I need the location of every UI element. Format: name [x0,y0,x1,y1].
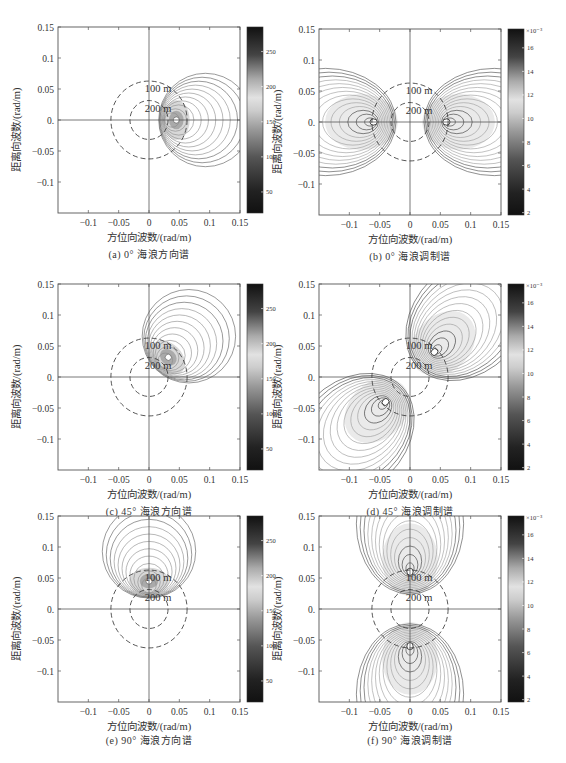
y-axis-label: 距离向波数/(rad/m) [269,90,284,174]
colorbar-tick: 2 [527,209,530,216]
x-tick: 0.15 [232,218,249,228]
y-tick: 0. [308,118,315,128]
x-tick: 0.05 [432,475,449,485]
x-tick: −0.1 [341,220,358,230]
colorbar-tick: 50 [266,188,273,195]
colorbar-tick: 6 [527,162,531,169]
x-tick: 0.05 [171,475,188,485]
x-axis-label: 方位向波数/(rad/m) [368,486,452,501]
colorbar-tick: 10 [527,370,534,377]
colorbar-tick: 4 [527,441,531,448]
y-tick: 0.1 [42,543,54,553]
panel-caption: (f) 90° 海浪调制谱 [367,732,453,747]
x-tick: −0.05 [108,475,130,485]
y-tick: 0.1 [42,311,54,321]
colorbar-tick: 14 [527,68,534,75]
y-tick: 0.1 [303,543,315,553]
panel-caption: (b) 0° 海浪调制谱 [369,248,451,263]
ring-label-200m: 200 m [406,360,433,371]
y-tick: 0.05 [37,574,54,584]
plot-b: 100 m200 m−0.1−0.0500.050.10.150.150.10.… [319,29,561,235]
y-tick: −0.05 [32,404,54,414]
colorbar-tick: 14 [527,323,534,330]
x-tick: 0.1 [204,475,216,485]
y-tick: 0.05 [298,87,315,97]
x-axis-label: 方位向波数/(rad/m) [107,718,191,733]
y-tick: 0. [47,116,54,126]
colorbar-tick: 4 [527,673,531,680]
colorbar [508,284,524,470]
x-tick: −0.05 [369,220,391,230]
colorbar-tick: 6 [527,417,531,424]
plot-a: 100 m200 m−0.1−0.0500.050.10.150.150.10.… [58,27,300,233]
colorbar-tick: 16 [527,299,534,306]
x-tick: 0.05 [432,220,449,230]
x-tick: −0.1 [341,475,358,485]
panel-caption: (e) 90° 海浪方向谱 [106,732,193,747]
colorbar-tick: 12 [527,578,534,585]
x-tick: 0 [147,475,152,485]
y-tick: 0.05 [37,85,54,95]
y-tick: −0.1 [298,667,315,677]
y-tick: 0. [308,605,315,615]
colorbar-tick: 16 [527,44,534,51]
colorbar-tick: 10 [527,115,534,122]
colorbar-tick: 16 [527,531,534,538]
x-tick: −0.05 [108,707,130,717]
colorbar-exponent: ×10⁻³ [526,27,542,34]
y-tick: 0.05 [298,342,315,352]
y-axis-label: 距离向波数/(rad/m) [8,88,23,172]
colorbar-tick: 250 [266,48,276,55]
y-tick: 0.05 [37,342,54,352]
x-tick: 0.1 [204,707,216,717]
ring-label-100m: 100 m [406,572,433,583]
x-tick: 0.1 [204,218,216,228]
colorbar-tick: 50 [266,677,273,684]
x-tick: 0 [408,220,413,230]
colorbar-tick: 14 [527,555,534,562]
x-tick: −0.1 [341,707,358,717]
colorbar-tick: 8 [527,139,530,146]
y-tick: 0.1 [42,54,54,64]
x-tick: 0.1 [465,475,477,485]
ring-label-100m: 100 m [145,572,172,583]
plot-d: 100 m200 m−0.1−0.0500.050.10.150.150.10.… [319,284,561,490]
x-tick: −0.1 [80,707,97,717]
x-tick: −0.05 [369,475,391,485]
colorbar-tick: 8 [527,394,530,401]
y-tick: −0.05 [293,636,315,646]
y-tick: −0.1 [37,435,54,445]
colorbar-tick: 2 [527,696,530,703]
ring-label-200m: 200 m [406,105,433,116]
colorbar-tick: 6 [527,649,531,656]
ring-label-100m: 100 m [145,340,172,351]
colorbar-tick: 250 [266,305,276,312]
y-tick: 0.1 [303,311,315,321]
y-axis-label: 距离向波数/(rad/m) [269,577,284,661]
y-tick: 0.15 [298,25,315,35]
colorbar-tick: 12 [527,346,534,353]
x-tick: 0 [147,218,152,228]
y-axis-label: 距离向波数/(rad/m) [8,345,23,429]
colorbar-tick: 250 [266,537,276,544]
x-tick: 0 [408,707,413,717]
y-tick: −0.1 [37,667,54,677]
y-tick: 0.15 [37,512,54,522]
ring-label-100m: 100 m [145,83,172,94]
x-tick: 0.1 [465,707,477,717]
y-tick: 0. [47,605,54,615]
ring-label-100m: 100 m [406,85,433,96]
x-tick: 0.15 [493,220,510,230]
ring-label-200m: 200 m [145,103,172,114]
y-tick: 0.1 [303,56,315,66]
x-tick: −0.05 [369,707,391,717]
x-tick: 0.05 [432,707,449,717]
y-tick: 0.15 [298,280,315,290]
x-tick: 0.15 [232,707,249,717]
y-tick: −0.1 [298,435,315,445]
colorbar [247,516,263,702]
colorbar-exponent: ×10⁻³ [526,282,542,289]
plot-f: 100 m200 m−0.1−0.0500.050.10.150.150.10.… [319,516,561,722]
ring-label-200m: 200 m [145,360,172,371]
y-tick: 0.05 [298,574,315,584]
